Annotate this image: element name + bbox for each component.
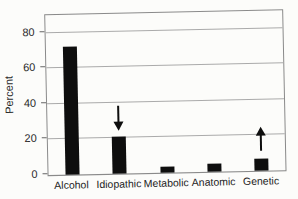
arrow-up-icon (256, 126, 266, 135)
arrow-up-shaft-genetic (260, 134, 262, 151)
y-axis: 020406080 (0, 14, 48, 175)
x-label-alcohol: Alcohol (54, 178, 89, 191)
gridline-20 (48, 134, 285, 140)
bar-idiopathic (112, 136, 127, 174)
x-label-metabolic: Metabolic (144, 176, 189, 189)
scanned-bar-chart-figure: Percent 020406080 AlcoholIdiopathicMetab… (0, 0, 298, 199)
y-tick-label-20: 20 (24, 133, 36, 144)
arrow-down-icon (114, 122, 124, 131)
x-label-anatomic: Anatomic (192, 175, 236, 188)
y-tick-label-80: 80 (22, 27, 34, 38)
x-label-idiopathic: Idiopathic (96, 177, 141, 190)
gridline-60 (46, 63, 283, 69)
x-axis-labels: AlcoholIdiopathicMetabolicAnatomicGeneti… (0, 0, 296, 3)
x-label-genetic: Genetic (243, 174, 279, 187)
bar-metabolic (160, 166, 174, 173)
gridline-80 (46, 27, 283, 33)
bar-anatomic (207, 164, 221, 172)
plot-area (44, 9, 286, 176)
chart: Percent 020406080 AlcoholIdiopathicMetab… (0, 0, 298, 199)
gridline-40 (47, 98, 284, 104)
y-tick-label-0: 0 (31, 169, 37, 180)
y-tick-label-40: 40 (24, 98, 36, 109)
arrow-down-shaft-idiopathic (117, 106, 119, 123)
bar-alcohol (63, 47, 80, 175)
bar-genetic (255, 159, 269, 171)
y-tick-label-60: 60 (23, 62, 35, 73)
